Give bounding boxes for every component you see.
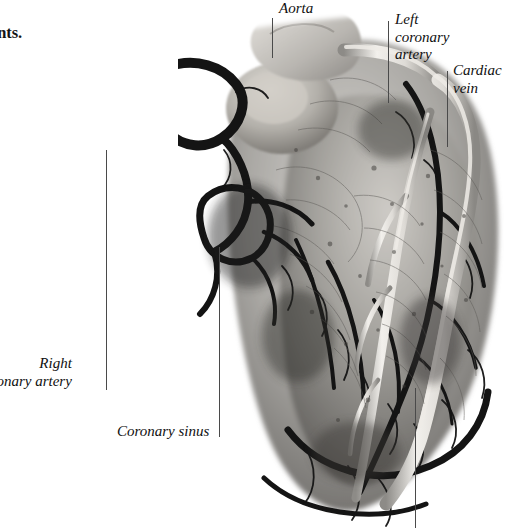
label-left-coronary-artery: Left coronary artery xyxy=(395,11,449,64)
label-coronary-sinus: Coronary sinus xyxy=(117,423,209,441)
label-aorta: Aorta xyxy=(279,0,313,18)
label-right-coronary-artery: Right coronary artery xyxy=(0,355,72,390)
label-cardiac-vein: Cardiac vein xyxy=(453,62,502,97)
textbook-page: ound the body, gen and nutrients. the se… xyxy=(0,0,520,528)
leader-line-aorta xyxy=(272,18,273,58)
leader-line-right-coronary-artery xyxy=(106,150,107,390)
leader-line-left-coronary-artery xyxy=(388,21,389,103)
leader-line-coronary-sinus xyxy=(219,247,220,437)
body-paragraph-1: ound the body, gen and nutrients. the se… xyxy=(0,1,22,169)
leader-line-apex-vessel xyxy=(415,388,416,528)
leader-line-cardiac-vein xyxy=(447,71,448,147)
